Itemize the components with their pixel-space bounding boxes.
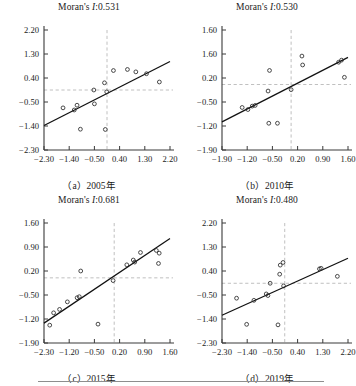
x-tick-label: 1.60 [340,154,355,164]
data-point [266,89,270,93]
x-tick-label: 0.40 [290,347,305,357]
y-tick-label: 1.30 [24,49,39,59]
x-tick-label: −0.50 [262,154,282,164]
data-point [245,322,249,326]
x-tick-label: −1.40 [237,347,257,357]
chart-panel-b: Moran's I:0.530 −1.90−1.20−0.500.201.601… [178,0,356,193]
x-tick-label: −0.50 [262,347,282,357]
data-point [93,102,97,106]
x-tick-label: 1.60 [162,347,177,357]
y-tick-label: 1.30 [202,242,217,252]
data-point [79,269,83,273]
data-point [58,308,62,312]
data-point [268,69,272,73]
data-point [281,261,285,265]
chart-panel-a: Moran's I:0.531 −2.30−1.40−0.500.401.302… [0,0,178,193]
data-point [301,63,305,67]
x-tick-label: 1.30 [315,347,330,357]
panel-c-caption: （c）2015年 [0,371,178,385]
y-tick-label: 0.40 [202,266,217,276]
data-point [96,322,100,326]
data-point [52,311,56,315]
panel-a-caption: （a）2005年 [0,178,178,192]
panel-d-caption: （d）2019年 [178,371,356,385]
chart-panel-c: Moran's I:0.681 −1.90−1.20−0.500.200.901… [0,193,178,386]
y-tick-label: −1.40 [197,314,217,324]
x-tick-label: −0.50 [84,154,104,164]
y-tick-label: 2.20 [24,25,39,35]
x-tick-label: 1.30 [137,154,152,164]
y-tick-label: −0.50 [19,290,39,300]
data-point [276,323,280,327]
figure-root: Moran's I:0.531 −2.30−1.40−0.500.401.302… [0,0,356,386]
data-point [235,296,239,300]
x-tick-label: −2.30 [34,154,54,164]
y-tick-label: 1.60 [24,218,39,228]
y-tick-label: 1.60 [202,49,217,59]
data-point [157,80,161,84]
data-point [157,251,161,255]
y-tick-label: 0.20 [202,73,217,83]
regression-line [222,57,348,121]
data-point [343,75,347,79]
y-tick-label: −1.20 [197,121,217,131]
data-point [240,106,244,110]
x-tick-label: −1.20 [59,347,79,357]
panel-d-plot: −2.30−1.40−0.500.401.302.20−2.30−1.40−0.… [178,193,356,386]
y-tick-label: −0.50 [197,290,217,300]
data-point [276,121,280,125]
x-tick-label: 0.40 [112,154,127,164]
x-tick-label: −2.30 [34,347,54,357]
data-point [134,70,138,74]
x-tick-label: 0.20 [112,347,127,357]
data-point [48,323,52,327]
data-point [139,251,143,255]
data-point [157,262,161,266]
y-tick-label: 2.20 [202,218,217,228]
data-point [335,274,339,278]
panel-c-plot: −1.90−1.20−0.500.200.901.60−2.30−1.20−0.… [0,193,178,386]
x-tick-label: −1.40 [59,154,79,164]
y-tick-label: 0.40 [24,73,39,83]
x-tick-label: 2.20 [340,347,355,357]
data-point [111,279,115,283]
data-point [112,69,116,73]
data-point [300,54,304,58]
x-tick-label: −1.20 [237,154,257,164]
data-point [75,103,79,107]
y-tick-label: 1.60 [202,25,217,35]
y-tick-label: −1.20 [19,314,39,324]
data-point [125,263,129,267]
y-tick-label: −1.40 [19,121,39,131]
x-tick-label: −2.30 [212,347,232,357]
x-tick-label: −1.90 [212,154,232,164]
chart-panel-d: Moran's I:0.480 −2.30−1.40−0.500.401.302… [178,193,356,386]
y-tick-label: 0.20 [24,266,39,276]
data-point [278,272,282,276]
data-point [65,300,69,304]
data-point [61,106,65,110]
data-point [267,121,271,125]
y-tick-label: −0.50 [197,97,217,107]
figure-bottom-rule [38,381,324,382]
data-point [103,81,107,85]
panel-b-caption: （b）2010年 [178,178,356,192]
y-tick-label: −0.50 [19,97,39,107]
x-tick-label: 0.20 [290,154,305,164]
y-tick-label: 0.90 [24,242,39,252]
x-tick-label: 2.20 [162,154,177,164]
data-point [79,127,83,131]
x-tick-label: 0.90 [315,154,330,164]
x-tick-label: −0.50 [84,347,104,357]
regression-line [44,238,170,323]
data-point [126,68,130,72]
panel-b-plot: −1.90−1.20−0.500.201.601.60−1.90−1.20−0.… [178,0,356,193]
x-tick-label: 0.90 [137,347,152,357]
panel-a-plot: −2.30−1.40−0.500.401.302.20−2.30−1.40−0.… [0,0,178,193]
